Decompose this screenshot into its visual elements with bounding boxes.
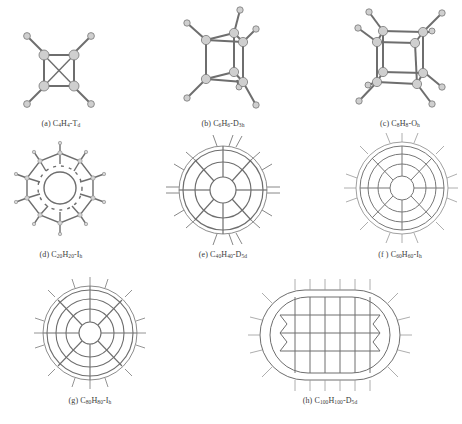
caption-g: (g) C80H80-Ih bbox=[69, 396, 112, 405]
molecule-c100h100-elongated-cage bbox=[240, 275, 420, 395]
panel-f-c60h60: (f ) C60H60-Ih bbox=[340, 130, 462, 275]
molecule-c20h20-dodecahedrane bbox=[0, 130, 150, 250]
caption-d: (d) C20H20-Ih bbox=[40, 250, 83, 259]
molecule-c40h40-cage bbox=[160, 130, 300, 255]
panel-e-c40h40: (e) C40H40-D5d bbox=[160, 130, 300, 275]
panel-g-c80h80: (g) C80H80-Ih bbox=[30, 275, 160, 420]
panel-h-c100h100: (h) C100H100-D5d bbox=[240, 275, 420, 420]
caption-e: (e) C40H40-D5d bbox=[199, 250, 247, 259]
caption-h: (h) C100H100-D5d bbox=[303, 396, 358, 405]
molecule-c80h80-cage bbox=[30, 275, 160, 395]
panel-c-c8h8: (c) C8H8-Oh bbox=[0, 0, 462, 135]
molecule-c8h8-cubane bbox=[0, 0, 462, 115]
figure-caption-illegible bbox=[118, 417, 348, 422]
caption-f: (f ) C60H60-Ih bbox=[378, 250, 422, 259]
caption-c: (c) C8H8-Oh bbox=[380, 119, 420, 128]
molecule-c60h60-cage bbox=[340, 130, 462, 255]
panel-d-c20h20: (d) C20H20-Ih bbox=[0, 130, 150, 275]
